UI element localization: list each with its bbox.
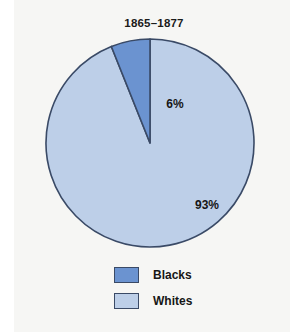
legend-swatch-whites: [114, 293, 139, 309]
legend-swatch-blacks: [114, 267, 139, 283]
pie-label-blacks: 6%: [155, 97, 195, 111]
pie-chart-figure: 1865–1877 6% 93% Blacks Whites: [0, 0, 308, 336]
legend-item-whites[interactable]: Whites: [62, 288, 248, 314]
pie-label-whites: 93%: [185, 198, 229, 212]
chart-title: 1865–1877: [0, 17, 308, 29]
pie-svg: [44, 37, 256, 249]
legend-label-whites: Whites: [153, 294, 192, 308]
legend-item-blacks[interactable]: Blacks: [62, 262, 248, 288]
chart-legend: Blacks Whites: [62, 262, 248, 320]
legend-label-blacks: Blacks: [153, 268, 192, 282]
pie-chart-area: 6% 93%: [44, 37, 256, 249]
